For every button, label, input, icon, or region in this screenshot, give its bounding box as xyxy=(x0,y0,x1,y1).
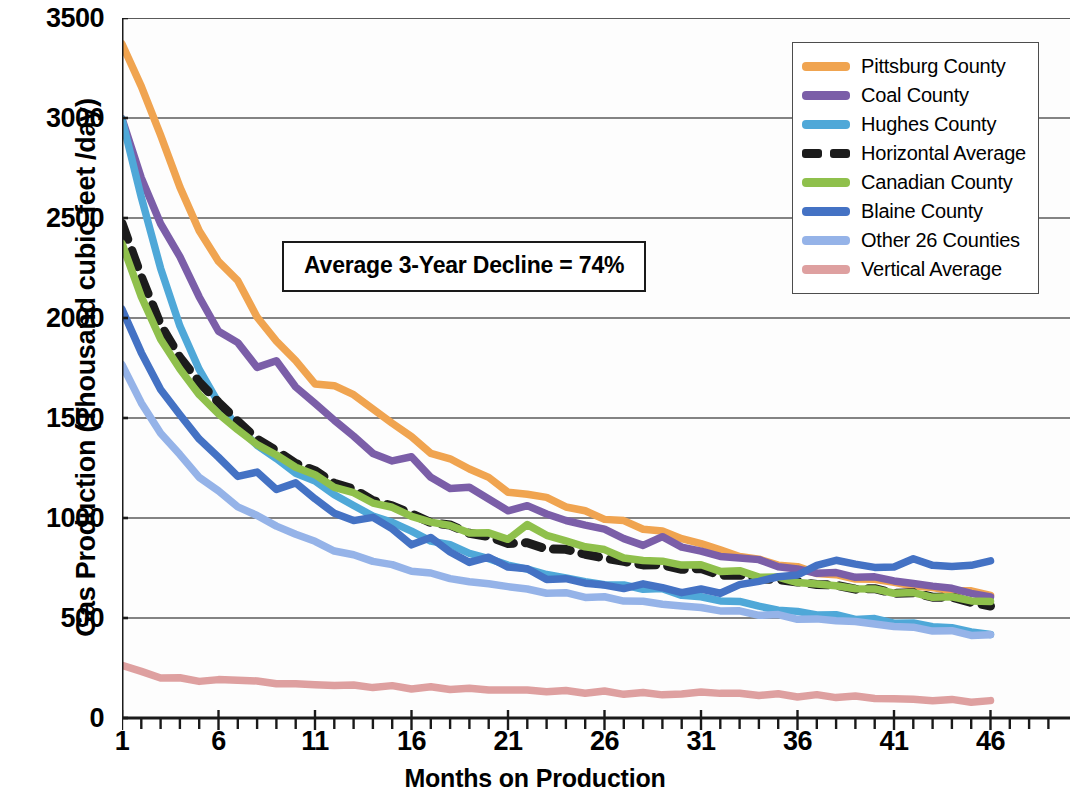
x-tick-label: 41 xyxy=(879,726,908,757)
legend-color-swatch xyxy=(802,207,850,216)
legend-item-label: Hughes County xyxy=(861,113,996,136)
legend-color-swatch xyxy=(802,149,850,158)
y-tick-label: 1500 xyxy=(4,403,104,434)
legend-item[interactable]: Horizontal Average xyxy=(802,139,1026,168)
legend-item[interactable]: Coal County xyxy=(802,81,1026,110)
x-tick-label: 16 xyxy=(397,726,426,757)
y-axis-tick-labels: 0500100015002000250030003500 xyxy=(0,0,104,800)
legend-color-swatch xyxy=(802,178,850,187)
legend-item-label: Pittsburg County xyxy=(861,55,1006,78)
y-tick-label: 2500 xyxy=(4,203,104,234)
chart-legend: Pittsburg CountyCoal CountyHughes County… xyxy=(792,42,1039,294)
average-decline-annotation: Average 3-Year Decline = 74% xyxy=(282,241,646,292)
x-tick-label: 11 xyxy=(301,726,329,757)
x-tick-label: 46 xyxy=(976,726,1005,757)
legend-item[interactable]: Canadian County xyxy=(802,168,1026,197)
legend-item-label: Vertical Average xyxy=(861,258,1002,281)
x-tick-label: 36 xyxy=(783,726,812,757)
legend-color-swatch xyxy=(802,91,850,100)
legend-color-swatch xyxy=(802,236,850,245)
x-tick-label: 1 xyxy=(115,726,130,757)
x-axis-title: Months on Production xyxy=(0,764,1070,793)
legend-item[interactable]: Vertical Average xyxy=(802,255,1026,284)
gas-production-decline-chart: Gas Production (Thousand cubic feet /day… xyxy=(0,0,1070,800)
x-tick-label: 31 xyxy=(686,726,715,757)
x-tick-label: 6 xyxy=(211,726,226,757)
y-tick-label: 2000 xyxy=(4,303,104,334)
y-tick-label: 500 xyxy=(4,603,104,634)
y-tick-label: 3000 xyxy=(4,103,104,134)
legend-color-swatch xyxy=(802,120,850,129)
y-tick-label: 1000 xyxy=(4,503,104,534)
legend-item[interactable]: Pittsburg County xyxy=(802,52,1026,81)
x-axis-tick-labels: 161116212631364146 xyxy=(0,726,1070,766)
x-tick-label: 26 xyxy=(590,726,619,757)
legend-item[interactable]: Hughes County xyxy=(802,110,1026,139)
legend-item-label: Canadian County xyxy=(861,171,1013,194)
legend-item-label: Coal County xyxy=(861,84,969,107)
legend-item-label: Blaine County xyxy=(861,200,983,223)
legend-item-label: Horizontal Average xyxy=(861,142,1026,165)
y-tick-label: 3500 xyxy=(4,3,104,34)
legend-item-label: Other 26 Counties xyxy=(861,229,1020,252)
legend-color-swatch xyxy=(802,62,850,71)
legend-item[interactable]: Blaine County xyxy=(802,197,1026,226)
legend-color-swatch xyxy=(802,265,850,274)
x-tick-label: 21 xyxy=(493,726,522,757)
legend-item[interactable]: Other 26 Counties xyxy=(802,226,1026,255)
